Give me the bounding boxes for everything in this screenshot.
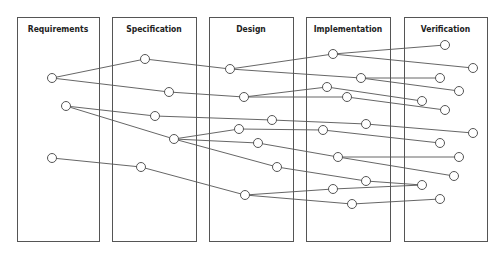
trace-node-d7: [241, 191, 250, 200]
phase-label-design: Design: [236, 24, 266, 34]
phase-label-implementation: Implementation: [314, 24, 383, 34]
trace-node-v6: [441, 106, 450, 115]
trace-node-v9: [455, 153, 464, 162]
trace-node-s2: [165, 88, 174, 97]
trace-node-v12: [436, 195, 445, 204]
trace-node-s3: [151, 112, 160, 121]
phase-label-verification: Verification: [421, 24, 470, 34]
trace-node-i2: [357, 74, 366, 83]
trace-node-i1: [329, 50, 338, 59]
trace-node-v1: [441, 41, 450, 50]
trace-node-r2: [62, 102, 71, 111]
trace-node-s1: [141, 55, 150, 64]
phase-label-specification: Specification: [126, 24, 182, 34]
trace-node-i8: [362, 177, 371, 186]
trace-node-i7: [334, 153, 343, 162]
traceability-diagram: Requirements Specification Design Implem…: [0, 0, 500, 255]
trace-node-i5: [362, 120, 371, 129]
trace-node-i4: [343, 93, 352, 102]
trace-node-d2: [240, 93, 249, 102]
trace-node-v2: [469, 64, 478, 73]
trace-node-r3: [48, 154, 57, 163]
trace-node-v5: [418, 97, 427, 106]
phase-specification: Specification: [113, 18, 197, 242]
phase-box-requirements: [18, 18, 100, 242]
phase-label-requirements: Requirements: [28, 24, 89, 34]
trace-node-r1: [48, 74, 57, 83]
trace-node-i3: [323, 83, 332, 92]
trace-node-i9: [329, 185, 338, 194]
trace-node-i10: [348, 200, 357, 209]
trace-node-s4: [170, 135, 179, 144]
trace-node-v3: [436, 74, 445, 83]
trace-node-v11: [418, 181, 427, 190]
phase-box-specification: [113, 18, 197, 242]
trace-node-v10: [450, 172, 459, 181]
trace-node-d3: [268, 116, 277, 125]
trace-node-s5: [137, 163, 146, 172]
trace-node-d5: [254, 139, 263, 148]
trace-node-v7: [469, 129, 478, 138]
phase-requirements: Requirements: [18, 18, 100, 242]
trace-node-d1: [226, 65, 235, 74]
trace-node-i6: [319, 126, 328, 135]
trace-node-d6: [273, 163, 282, 172]
trace-node-d4: [235, 125, 244, 134]
trace-node-v8: [436, 139, 445, 148]
trace-node-v4: [455, 87, 464, 96]
